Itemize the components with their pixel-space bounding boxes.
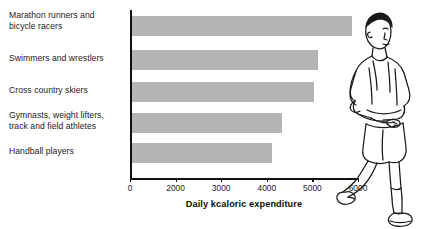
x-tick-4 bbox=[312, 178, 313, 182]
x-tick-label-0: 0 bbox=[128, 183, 133, 193]
x-tick-label-4: 5000 bbox=[303, 183, 322, 193]
bar-handball-players bbox=[132, 143, 273, 163]
x-tick-label-3: 4000 bbox=[257, 183, 276, 193]
category-labels: Marathon runners and bicycle racers Swim… bbox=[0, 0, 128, 178]
bar-cross-country-skiers bbox=[132, 82, 314, 102]
x-tick-label-2: 3000 bbox=[212, 183, 231, 193]
category-label-4: Handball players bbox=[9, 146, 129, 157]
plot-area bbox=[130, 10, 358, 178]
category-label-1: Swimmers and wrestlers bbox=[9, 53, 129, 64]
runner-illustration bbox=[333, 2, 425, 228]
x-tick-0 bbox=[130, 178, 131, 182]
bar-chart-figure: Marathon runners and bicycle racers Swim… bbox=[0, 0, 426, 229]
x-tick-2 bbox=[221, 178, 222, 182]
bar-marathon-runners-and-bicycle-racers bbox=[132, 16, 352, 36]
category-label-2: Cross country skiers bbox=[9, 85, 129, 96]
x-axis-title: Daily kcaloric expenditure bbox=[130, 199, 358, 209]
x-tick-label-1: 2000 bbox=[166, 183, 185, 193]
x-axis-line bbox=[130, 178, 358, 180]
x-tick-1 bbox=[176, 178, 177, 182]
bar-gymnasts-weight-lifters-track-and-field-athletes bbox=[132, 113, 282, 133]
bar-swimmers-and-wrestlers bbox=[132, 50, 318, 70]
category-label-3: Gymnasts, weight lifters, track and fiel… bbox=[9, 110, 129, 133]
category-label-0: Marathon runners and bicycle racers bbox=[9, 10, 129, 33]
x-tick-3 bbox=[267, 178, 268, 182]
